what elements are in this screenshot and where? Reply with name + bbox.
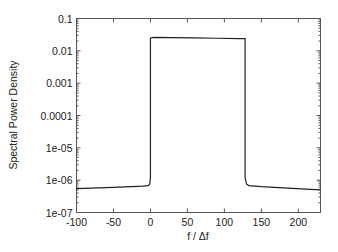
spectral-density-chart: 1e-071e-061e-050.00010.0010.010.1 -100-5… bbox=[0, 0, 338, 252]
plot-frame bbox=[77, 19, 321, 213]
y-tick-label: 0.1 bbox=[58, 13, 73, 25]
x-tick-label: 0 bbox=[148, 216, 154, 228]
x-tick-label: -50 bbox=[106, 216, 121, 228]
y-tick-label: 0.01 bbox=[52, 45, 73, 57]
y-tick-label: 1e-06 bbox=[46, 174, 73, 186]
x-tick-label: 150 bbox=[253, 216, 271, 228]
series-layer bbox=[77, 37, 321, 189]
x-axis: -100-50050100150200 bbox=[66, 19, 307, 228]
y-axis-label: Spectral Power Density bbox=[7, 60, 19, 170]
x-tick-label: 100 bbox=[216, 216, 234, 228]
x-tick-label: 200 bbox=[290, 216, 308, 228]
y-tick-label: 0.001 bbox=[46, 77, 72, 89]
series-line-spectrum bbox=[77, 37, 321, 189]
y-tick-label: 0.0001 bbox=[40, 110, 72, 122]
x-axis-label: f / Δf bbox=[187, 230, 209, 242]
x-tick-label: -100 bbox=[66, 216, 87, 228]
x-tick-label: 50 bbox=[182, 216, 194, 228]
y-tick-label: 1e-05 bbox=[46, 142, 73, 154]
